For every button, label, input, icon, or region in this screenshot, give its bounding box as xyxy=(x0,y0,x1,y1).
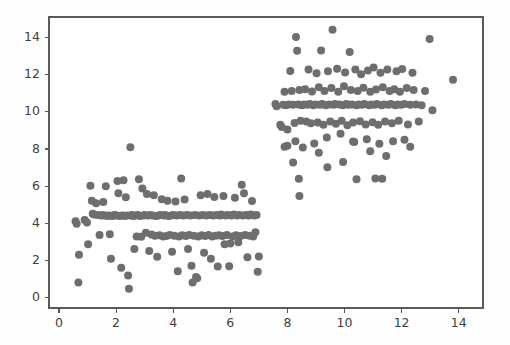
data-point xyxy=(281,88,289,96)
data-point xyxy=(83,218,91,226)
y-tick-label: 0 xyxy=(32,289,40,304)
data-point xyxy=(197,191,205,199)
data-point xyxy=(324,67,332,75)
data-point xyxy=(295,175,303,183)
x-tick-label: 0 xyxy=(55,315,63,330)
data-point xyxy=(379,83,387,91)
data-point xyxy=(301,85,309,93)
data-point xyxy=(283,126,291,134)
x-tick-label: 4 xyxy=(169,315,177,330)
data-point xyxy=(305,65,313,73)
data-point xyxy=(248,197,256,205)
data-point xyxy=(408,69,416,77)
x-tick-label: 10 xyxy=(337,315,353,330)
data-point xyxy=(359,84,367,92)
data-point xyxy=(371,174,379,182)
data-point xyxy=(374,121,382,129)
data-point xyxy=(168,248,176,256)
x-tick-label: 6 xyxy=(226,315,234,330)
data-point xyxy=(308,87,316,95)
data-point xyxy=(254,268,262,276)
x-tick-label: 12 xyxy=(394,315,410,330)
data-point xyxy=(381,118,389,126)
data-point xyxy=(313,69,321,77)
data-point xyxy=(150,191,158,199)
data-point xyxy=(319,121,327,129)
data-point xyxy=(124,271,132,279)
data-point xyxy=(346,48,354,56)
data-point xyxy=(181,196,189,204)
data-point xyxy=(347,86,355,94)
data-point xyxy=(396,88,404,96)
data-point xyxy=(315,149,323,157)
data-point xyxy=(125,285,133,293)
data-point xyxy=(102,182,110,190)
data-point xyxy=(187,262,195,270)
data-point xyxy=(426,35,434,43)
data-point xyxy=(372,86,380,94)
y-tick-label: 10 xyxy=(24,103,40,118)
data-point xyxy=(203,190,211,198)
y-tick-label: 6 xyxy=(32,178,40,193)
data-point xyxy=(92,199,100,207)
data-point xyxy=(291,137,299,145)
data-point xyxy=(307,119,315,127)
data-point xyxy=(377,69,385,77)
data-point xyxy=(363,135,371,143)
data-point xyxy=(251,228,259,236)
data-point xyxy=(214,263,222,271)
data-point xyxy=(99,198,107,206)
data-point xyxy=(253,211,261,219)
y-tick-label: 2 xyxy=(32,252,40,267)
data-point xyxy=(382,152,390,160)
data-point xyxy=(334,88,342,96)
data-point xyxy=(289,158,297,166)
data-point xyxy=(357,70,365,78)
x-axis-ticks: 02468101214 xyxy=(55,308,467,330)
data-point xyxy=(145,247,153,255)
data-point xyxy=(341,68,349,76)
data-point xyxy=(75,251,83,259)
y-axis-ticks: 02468101214 xyxy=(24,29,49,304)
data-point xyxy=(295,192,303,200)
data-point xyxy=(375,140,383,148)
data-point xyxy=(231,194,239,202)
data-point xyxy=(418,101,426,109)
data-point xyxy=(370,64,378,72)
data-point xyxy=(410,86,418,94)
data-point xyxy=(388,119,396,127)
data-point xyxy=(243,253,251,261)
data-point xyxy=(389,137,397,145)
data-point xyxy=(449,76,457,84)
data-point xyxy=(219,192,227,200)
data-point xyxy=(333,65,341,73)
data-point xyxy=(339,158,347,166)
data-point xyxy=(193,274,201,282)
data-point xyxy=(400,136,408,144)
data-point xyxy=(362,120,370,128)
data-point xyxy=(96,231,104,239)
y-tick-label: 12 xyxy=(24,66,40,81)
data-point xyxy=(383,65,391,73)
plot-canvas: 02468101214 02468101214 xyxy=(0,0,510,345)
data-point xyxy=(349,119,357,127)
data-point xyxy=(415,118,423,126)
data-point xyxy=(288,87,296,95)
data-point xyxy=(226,239,234,247)
data-point xyxy=(207,255,215,263)
data-point xyxy=(177,174,185,182)
data-point xyxy=(114,189,122,197)
data-point xyxy=(238,181,246,189)
data-point xyxy=(281,143,289,151)
y-tick-label: 4 xyxy=(32,215,40,230)
data-point xyxy=(428,106,436,114)
x-tick-label: 14 xyxy=(451,315,467,330)
data-point xyxy=(323,133,331,141)
data-point xyxy=(321,87,329,95)
data-point xyxy=(126,143,134,151)
data-point xyxy=(255,252,263,260)
data-point xyxy=(398,65,406,73)
data-point xyxy=(337,130,345,138)
data-point xyxy=(327,84,335,92)
data-point xyxy=(310,139,318,147)
